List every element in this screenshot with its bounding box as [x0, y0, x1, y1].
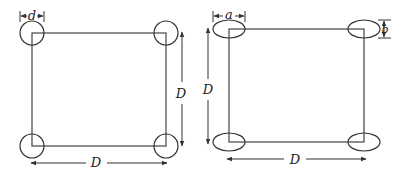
dimension-d: d [20, 8, 44, 23]
dimension-horizontal-D: D [227, 152, 366, 167]
label-b: b [381, 23, 388, 36]
label-D-vertical: D [175, 86, 187, 101]
dimension-vertical-D: D [202, 28, 214, 144]
dimension-horizontal-D: D [31, 155, 167, 170]
dimension-vertical-D: D [175, 32, 187, 146]
label-D-vertical: D [202, 82, 214, 97]
label-D-horizontal: D [289, 152, 301, 167]
square-outline [32, 33, 166, 146]
dimension-a: a [213, 7, 245, 22]
figure-circular: d D D [20, 8, 187, 170]
figure-elliptical: a b D D [202, 7, 391, 167]
label-D-horizontal: D [90, 155, 102, 170]
square-outline [229, 29, 364, 142]
diagram-canvas: d D D a [0, 0, 407, 175]
label-d: d [28, 8, 36, 23]
label-a: a [225, 7, 233, 22]
